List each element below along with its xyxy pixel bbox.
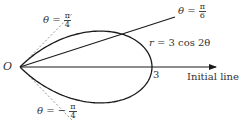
theta-minus-pi-over-4-label: θ = − π4 [37, 103, 77, 120]
equation-lhs: r [149, 37, 154, 48]
fraction: π4 [64, 12, 71, 29]
fraction: π4 [69, 103, 76, 120]
equation-rhs: = 3 cos 2θ [157, 37, 210, 48]
label-prefix: θ = [178, 5, 196, 16]
equation-label: r = 3 cos 2θ [149, 38, 210, 48]
intercept-label: 3 [153, 70, 159, 80]
theta-pi-over-6-label: θ = π6 [178, 3, 206, 20]
fraction: π6 [199, 3, 206, 20]
label-prefix: θ = − [37, 105, 66, 116]
theta-pi-over-4-label: θ = π4 [43, 12, 71, 29]
denominator: 4 [69, 112, 76, 120]
denominator: 6 [199, 12, 206, 20]
initial-line-label: Initial line [187, 72, 239, 82]
pole-label: O [3, 61, 12, 72]
denominator: 4 [64, 21, 71, 29]
polar-diagram: O 3 Initial line r = 3 cos 2θ θ = π6 θ =… [0, 0, 241, 130]
label-prefix: θ = [43, 14, 61, 25]
